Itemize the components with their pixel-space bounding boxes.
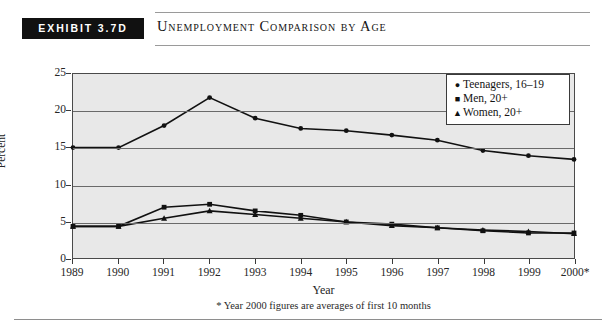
data-point xyxy=(207,202,212,207)
x-tick-mark-1995 xyxy=(346,259,347,264)
gridline-15 xyxy=(73,148,574,149)
x-tick-mark-1997 xyxy=(438,259,439,264)
y-tick-mark-25 xyxy=(66,73,71,74)
x-tick-label-1997: 1997 xyxy=(426,266,449,278)
x-tick-label-1993: 1993 xyxy=(243,266,266,278)
legend-item: ●Teenagers, 16–19 xyxy=(452,78,564,92)
triangle-marker-icon: ▲ xyxy=(452,109,463,118)
y-tick-mark-0 xyxy=(66,259,71,260)
y-tick-label-0: 0 xyxy=(42,252,66,264)
data-point xyxy=(389,133,394,138)
y-tick-mark-15 xyxy=(66,147,71,148)
x-tick-label-1998: 1998 xyxy=(472,266,495,278)
bottom-rule xyxy=(14,319,602,321)
legend-item-label: Men, 20+ xyxy=(463,93,508,105)
x-tick-mark-2000* xyxy=(575,259,576,264)
x-axis-title: Year xyxy=(72,283,575,298)
exhibit-header: EXHIBIT 3.7D Unemployment Comparison by … xyxy=(0,18,615,52)
x-tick-label-1991: 1991 xyxy=(152,266,175,278)
y-tick-mark-10 xyxy=(66,185,71,186)
circle-marker-icon: ● xyxy=(452,81,463,90)
gridline-5 xyxy=(73,223,574,224)
series-line-square xyxy=(73,204,574,233)
y-tick-label-20: 20 xyxy=(42,103,66,115)
legend-item-label: Women, 20+ xyxy=(463,107,522,119)
data-point xyxy=(162,123,167,128)
chart-footnote: * Year 2000 figures are averages of firs… xyxy=(72,300,575,311)
x-tick-mark-1994 xyxy=(301,259,302,264)
y-tick-label-25: 25 xyxy=(42,66,66,78)
exhibit-title-container: Unemployment Comparison by Age xyxy=(155,12,590,46)
gridline-10 xyxy=(73,186,574,187)
x-tick-label-1994: 1994 xyxy=(289,266,312,278)
x-tick-mark-1999 xyxy=(529,259,530,264)
x-tick-mark-1989 xyxy=(72,259,73,264)
chart-container: Percent 0510152025 ●Teenagers, 16–19■Men… xyxy=(0,52,615,302)
chart-legend: ●Teenagers, 16–19■Men, 20+▲Women, 20+ xyxy=(446,74,570,125)
x-tick-mark-1992 xyxy=(209,259,210,264)
title-rule-top xyxy=(155,12,590,13)
y-axis-title: Percent xyxy=(0,134,7,168)
x-tick-mark-1990 xyxy=(118,259,119,264)
x-tick-mark-1991 xyxy=(163,259,164,264)
y-tick-label-15: 15 xyxy=(42,140,66,152)
x-tick-label-2000*: 2000* xyxy=(561,266,590,278)
legend-item: ■Men, 20+ xyxy=(452,92,564,106)
x-tick-mark-1998 xyxy=(484,259,485,264)
page-title: Unemployment Comparison by Age xyxy=(157,18,387,35)
x-tick-label-1992: 1992 xyxy=(198,266,221,278)
x-axis-ticks: 1989199019911992199319941995199619971998… xyxy=(72,259,575,285)
data-point xyxy=(344,128,349,133)
x-tick-label-1990: 1990 xyxy=(106,266,129,278)
data-point xyxy=(162,205,167,210)
data-point xyxy=(253,116,258,121)
y-axis-ticks: 0510152025 xyxy=(36,73,66,259)
data-point xyxy=(207,95,212,100)
legend-item-label: Teenagers, 16–19 xyxy=(463,79,544,91)
data-point xyxy=(298,126,303,131)
square-marker-icon: ■ xyxy=(452,95,463,104)
data-point xyxy=(435,138,440,143)
y-tick-label-10: 10 xyxy=(42,178,66,190)
x-tick-label-1995: 1995 xyxy=(335,266,358,278)
y-tick-mark-20 xyxy=(66,110,71,111)
y-tick-mark-5 xyxy=(66,222,71,223)
x-tick-label-1996: 1996 xyxy=(381,266,404,278)
x-tick-label-1989: 1989 xyxy=(61,266,84,278)
y-tick-label-5: 5 xyxy=(42,215,66,227)
legend-item: ▲Women, 20+ xyxy=(452,106,564,120)
title-rule-bottom xyxy=(155,45,590,46)
data-point xyxy=(572,157,577,162)
x-tick-mark-1993 xyxy=(255,259,256,264)
x-tick-label-1999: 1999 xyxy=(518,266,541,278)
x-tick-mark-1996 xyxy=(392,259,393,264)
data-point xyxy=(526,153,531,158)
exhibit-badge: EXHIBIT 3.7D xyxy=(22,18,144,39)
